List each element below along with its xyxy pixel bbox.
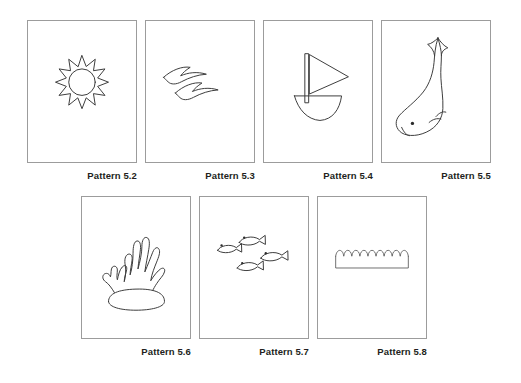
pattern-sheet: Pattern 5.2Pattern 5.3Pattern 5.4Pattern… bbox=[0, 0, 521, 383]
pattern-card-pattern-5-7[interactable] bbox=[199, 196, 309, 339]
pattern-card-pattern-5-8[interactable] bbox=[317, 196, 427, 339]
pattern-label-pattern-5-6: Pattern 5.6 bbox=[81, 346, 191, 357]
pattern-label-pattern-5-4: Pattern 5.4 bbox=[263, 170, 373, 181]
seagulls-icon bbox=[146, 21, 254, 162]
pattern-label-pattern-5-5: Pattern 5.5 bbox=[381, 170, 491, 181]
sailboat-icon bbox=[264, 21, 372, 162]
coral-icon bbox=[82, 197, 190, 338]
pattern-label-pattern-5-8: Pattern 5.8 bbox=[317, 346, 427, 357]
pattern-card-pattern-5-5[interactable] bbox=[381, 20, 491, 163]
pattern-label-pattern-5-2: Pattern 5.2 bbox=[27, 170, 137, 181]
pattern-card-pattern-5-2[interactable] bbox=[27, 20, 137, 163]
whale-icon bbox=[382, 21, 490, 162]
sun-icon bbox=[28, 21, 136, 162]
pattern-card-pattern-5-6[interactable] bbox=[81, 196, 191, 339]
pattern-card-pattern-5-4[interactable] bbox=[263, 20, 373, 163]
pattern-label-pattern-5-7: Pattern 5.7 bbox=[199, 346, 309, 357]
fish-school-icon bbox=[200, 197, 308, 338]
pattern-card-pattern-5-3[interactable] bbox=[145, 20, 255, 163]
waves-band-icon bbox=[318, 197, 426, 338]
pattern-label-pattern-5-3: Pattern 5.3 bbox=[145, 170, 255, 181]
